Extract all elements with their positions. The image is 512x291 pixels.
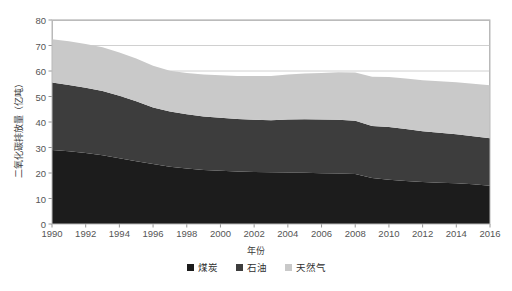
chart-figure: 二氧化碳排放量（亿吨） 80706050403020100 1990199219… — [0, 0, 512, 291]
legend-swatch-icon — [236, 264, 243, 271]
legend-item-石油[interactable]: 石油 — [236, 260, 267, 274]
chart-legend: 煤炭石油天然气 — [0, 260, 512, 274]
legend-item-天然气[interactable]: 天然气 — [285, 260, 326, 274]
x-axis-title: 年份 — [0, 244, 512, 257]
legend-label: 天然气 — [296, 260, 326, 274]
legend-item-煤炭[interactable]: 煤炭 — [187, 260, 218, 274]
legend-label: 石油 — [247, 260, 267, 274]
legend-label: 煤炭 — [198, 260, 218, 274]
legend-swatch-icon — [187, 264, 194, 271]
legend-swatch-icon — [285, 264, 292, 271]
